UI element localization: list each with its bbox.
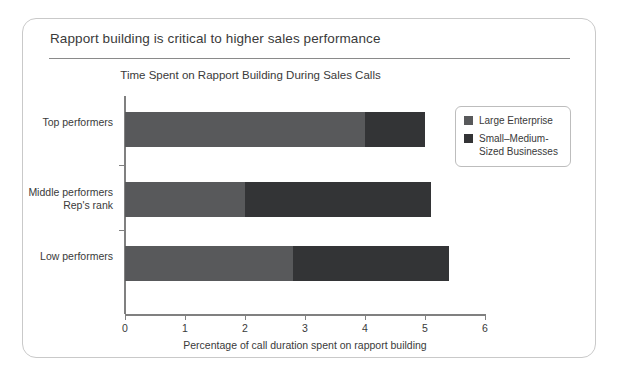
y-axis-title: Rep's rank [0,199,113,211]
legend-swatch-icon [464,116,473,125]
bar-segment-small-medium-sized-businesses [293,246,449,281]
legend-item-large-enterprise[interactable]: Large Enterprise [464,114,562,127]
y-tick-label-low-performers: Low performers [0,250,113,263]
bar-row-top-performers[interactable] [125,112,425,147]
legend-swatch-icon [464,134,473,143]
x-tick-label-6: 6 [473,322,497,334]
plot-area: Top performers Middle performers Rep's r… [125,96,485,314]
legend-label: Small–Medium-Sized Businesses [479,132,562,158]
x-tick-label-4: 4 [353,322,377,334]
x-axis-tick [365,314,366,320]
x-axis-tick [125,314,126,320]
chart-title: Time Spent on Rapport Building During Sa… [23,69,478,81]
chart-legend: Large Enterprise Small–Medium-Sized Busi… [455,106,571,167]
bar-segment-large-enterprise [125,112,365,147]
page-title: Rapport building is critical to higher s… [50,31,381,46]
bar-row-low-performers[interactable] [125,246,449,281]
bar-segment-large-enterprise [125,182,245,217]
x-axis-title: Percentage of call duration spent on rap… [65,339,545,351]
chart-card: Rapport building is critical to higher s… [22,18,596,358]
bar-segment-small-medium-sized-businesses [365,112,425,147]
y-axis-tick [119,165,125,166]
legend-label: Large Enterprise [479,114,562,127]
header-divider [49,58,570,59]
x-axis-tick [185,314,186,320]
x-axis-tick [305,314,306,320]
x-tick-label-2: 2 [233,322,257,334]
x-tick-label-0: 0 [113,322,137,334]
x-tick-label-5: 5 [413,322,437,334]
y-axis-tick [119,230,125,231]
x-axis-tick [485,314,486,320]
y-tick-label-top-performers: Top performers [0,116,113,129]
x-axis-tick [425,314,426,320]
y-tick-label-middle-performers: Middle performers [0,186,113,199]
bar-segment-large-enterprise [125,246,293,281]
bar-segment-small-medium-sized-businesses [245,182,431,217]
x-tick-label-1: 1 [173,322,197,334]
x-tick-label-3: 3 [293,322,317,334]
x-axis-tick [245,314,246,320]
legend-item-small-medium-sized-businesses[interactable]: Small–Medium-Sized Businesses [464,132,562,158]
bar-row-middle-performers[interactable] [125,182,431,217]
